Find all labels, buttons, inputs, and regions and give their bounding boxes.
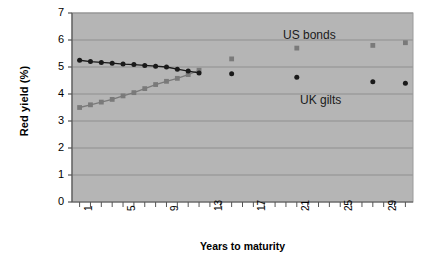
series-annotation-label: UK gilts <box>300 93 341 107</box>
data-point-marker <box>175 67 180 72</box>
data-point-marker <box>77 105 82 110</box>
data-point-marker <box>229 71 234 76</box>
data-point-marker <box>132 90 137 95</box>
data-point-marker <box>370 79 375 84</box>
data-point-marker <box>88 102 93 107</box>
data-point-marker <box>197 70 202 75</box>
data-point-marker <box>294 46 299 51</box>
plot-area-background <box>72 13 413 202</box>
x-axis-title: Years to maturity <box>72 240 413 252</box>
data-point-marker <box>110 61 115 66</box>
data-point-marker <box>99 100 104 105</box>
y-axis-tick-label: 1 <box>42 169 64 180</box>
chart-svg <box>0 0 438 264</box>
data-point-marker <box>121 62 126 67</box>
y-axis-tick-label: 4 <box>42 88 64 99</box>
y-axis-tick-label: 0 <box>42 196 64 207</box>
data-point-marker <box>403 40 408 45</box>
data-point-marker <box>99 60 104 65</box>
data-point-marker <box>175 76 180 81</box>
x-axis-tick-label: 17 <box>257 200 267 211</box>
x-axis-tick-label: 21 <box>301 200 311 211</box>
data-point-marker <box>110 97 115 102</box>
data-point-marker <box>142 63 147 68</box>
chart-figure: 012345671591317212529US bondsUK giltsRed… <box>0 0 438 264</box>
data-point-marker <box>121 93 126 98</box>
x-axis-tick-label: 1 <box>84 205 94 211</box>
data-point-marker <box>153 82 158 87</box>
data-point-marker <box>403 81 408 86</box>
data-point-marker <box>153 64 158 69</box>
series-annotation-label: US bonds <box>283 28 336 42</box>
y-axis-tick-label: 3 <box>42 115 64 126</box>
data-point-marker <box>164 65 169 70</box>
y-axis-tick-label: 6 <box>42 34 64 45</box>
data-point-marker <box>186 69 191 74</box>
y-axis-tick-label: 2 <box>42 142 64 153</box>
data-point-marker <box>294 75 299 80</box>
data-point-marker <box>88 59 93 64</box>
x-axis-tick-label: 25 <box>344 200 354 211</box>
data-point-marker <box>142 86 147 91</box>
y-axis-tick-label: 7 <box>42 7 64 18</box>
data-point-marker <box>370 43 375 48</box>
data-point-marker <box>131 62 136 67</box>
x-axis-tick-label: 9 <box>170 205 180 211</box>
data-point-marker <box>229 57 234 62</box>
x-axis-tick-label: 13 <box>214 200 224 211</box>
x-axis-tick-label: 29 <box>388 200 398 211</box>
x-axis-tick-label: 5 <box>127 205 137 211</box>
data-point-marker <box>77 58 82 63</box>
data-point-marker <box>164 79 169 84</box>
y-axis-tick-label: 5 <box>42 61 64 72</box>
y-axis-title: Red yield (%) <box>18 36 30 166</box>
